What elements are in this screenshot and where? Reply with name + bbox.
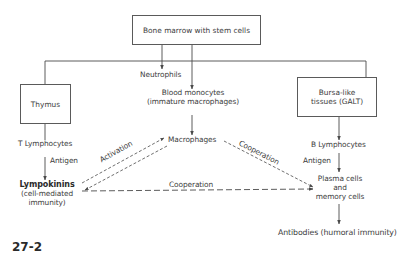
thymus-label: Thymus: [31, 100, 60, 109]
cell-mediated-line2: immunity): [14, 198, 80, 207]
b-lymphocytes-label: B Lymphocytes: [311, 140, 366, 149]
plasma-cells-group: Plasma cells and memory cells: [313, 174, 367, 201]
cooperation-horizontal-label: Cooperation: [169, 180, 213, 189]
bursa-line1: Bursa-like: [319, 88, 356, 97]
t-lymphocytes-label: T Lymphocytes: [18, 139, 72, 148]
plasma-line2: and: [313, 183, 367, 192]
macrophages-label: Macrophages: [168, 135, 216, 144]
bursa-line2: tissues (GALT): [311, 97, 363, 106]
blood-monocytes-line2: (immature macrophages): [146, 97, 240, 106]
thymus-box: Thymus: [20, 84, 71, 124]
antigen-right-label: Antigen: [303, 156, 331, 165]
bone-marrow-label: Bone marrow with stem cells: [143, 26, 250, 35]
neutrophils-label: Neutrophils: [140, 70, 181, 79]
lympokinins-label: Lympokinins: [14, 180, 80, 189]
plasma-line3: memory cells: [313, 192, 367, 201]
antigen-left-label: Antigen: [50, 156, 78, 165]
figure-label: 27-2: [12, 240, 42, 254]
blood-monocytes-label: Blood monocytes (immature macrophages): [146, 88, 240, 106]
bursa-box: Bursa-like tissues (GALT): [297, 77, 377, 117]
plasma-line1: Plasma cells: [313, 174, 367, 183]
cell-mediated-line1: (cell-mediated: [14, 189, 80, 198]
bone-marrow-box: Bone marrow with stem cells: [132, 15, 261, 45]
antibodies-label: Antibodies (humoral immunity): [278, 228, 397, 237]
blood-monocytes-line1: Blood monocytes: [146, 88, 240, 97]
lympokinins-group: Lympokinins (cell-mediated immunity): [14, 180, 80, 207]
